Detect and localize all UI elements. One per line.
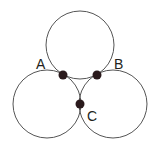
point-c-dot bbox=[76, 100, 85, 109]
circle-right bbox=[79, 70, 147, 138]
point-b-label: B bbox=[114, 56, 123, 72]
circle-left bbox=[13, 70, 81, 138]
point-c-label: C bbox=[87, 108, 97, 124]
circle-top bbox=[46, 11, 114, 79]
point-a-dot bbox=[59, 71, 68, 80]
tangent-circles-diagram: A B C bbox=[0, 0, 153, 148]
point-b-dot bbox=[93, 71, 102, 80]
point-a-label: A bbox=[36, 56, 46, 72]
